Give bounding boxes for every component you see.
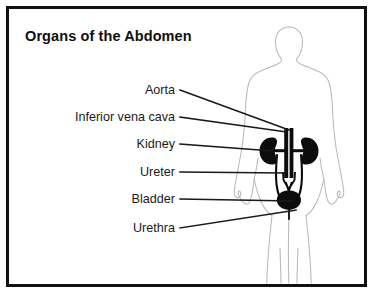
label-bladder: Bladder [0, 192, 175, 206]
aorta-vessel [290, 128, 294, 178]
diagram-page: Organs of the Abdomen [0, 0, 379, 299]
label-inferior-vena-cava: Inferior vena cava [0, 110, 175, 124]
label-urethra: Urethra [0, 221, 175, 235]
leader-line-ureter [180, 172, 285, 173]
label-aorta: Aorta [0, 83, 175, 97]
right-kidney [301, 138, 319, 165]
body-outline-icon [234, 27, 344, 283]
label-kidney: Kidney [0, 137, 175, 151]
leader-line-kidney [180, 144, 272, 151]
leader-line-inferior-vena-cava [180, 117, 286, 132]
leader-line-urethra [180, 210, 296, 228]
label-ureter: Ureter [0, 165, 175, 179]
leader-line-bladder [180, 199, 292, 201]
vena-cava-vessel [284, 128, 288, 178]
leader-lines-group [180, 90, 296, 228]
